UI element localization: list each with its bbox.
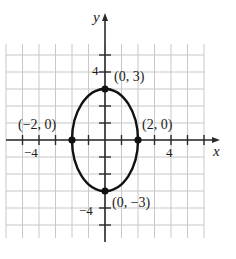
- point-label-top: (0, 3): [114, 70, 144, 84]
- x-tick-label-neg4: −4: [24, 146, 38, 159]
- point-label-right: (2, 0): [142, 118, 172, 132]
- point-label-left: (−2, 0): [18, 118, 56, 132]
- x-axis-label: x: [213, 144, 220, 159]
- point-top: [101, 85, 108, 92]
- point-right: [134, 136, 141, 143]
- point-left: [68, 136, 75, 143]
- x-tick-label-4: 4: [166, 146, 173, 159]
- y-axis-label: y: [93, 10, 100, 25]
- point-label-bottom: (0, −3): [112, 196, 150, 210]
- y-tick-label-4: 4: [92, 64, 99, 77]
- y-tick-label-neg4: −4: [79, 204, 93, 217]
- y-axis-arrow-icon: [102, 13, 108, 21]
- point-bottom: [101, 187, 108, 194]
